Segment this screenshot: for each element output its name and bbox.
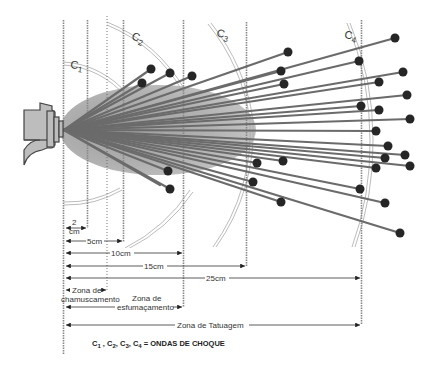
pellet <box>375 106 384 115</box>
pellet <box>391 34 400 43</box>
pellet <box>375 78 384 87</box>
pellet <box>372 127 381 136</box>
shock-wave-labels: C1 C2 C3 C4 <box>69 26 358 74</box>
label-15cm: 15cm <box>144 262 164 271</box>
legend-shock-waves: C1 , C2, C3, C4 = ONDAS DE CHOQUE <box>92 339 225 349</box>
pellet <box>188 72 197 81</box>
label-zona-esfumacamento-1: Zona de <box>132 294 162 303</box>
pellet <box>399 68 408 77</box>
label-c4: C4 <box>343 28 358 45</box>
gun-muzzle-icon <box>24 103 63 165</box>
firing-distance-diagram: C1 C2 C3 C4 2 cm 5cm 10cm 15cm 25cm Zona… <box>0 0 436 377</box>
pellet <box>372 164 381 173</box>
pellet <box>355 57 364 66</box>
label-25cm: 25cm <box>206 274 226 283</box>
pellet <box>147 65 156 74</box>
pellet <box>166 185 175 194</box>
pellet <box>279 157 288 166</box>
label-5cm: 5cm <box>87 237 102 246</box>
pellet <box>164 167 173 176</box>
pellet <box>384 142 393 151</box>
pellet <box>401 151 410 160</box>
pellet <box>396 229 405 238</box>
label-10cm: 10cm <box>111 249 131 258</box>
pellet <box>253 159 262 168</box>
pellet <box>406 115 415 124</box>
label-zona-chamuscamento-1: Zona de <box>72 286 102 295</box>
pellet <box>166 69 175 78</box>
label-c3: C3 <box>215 26 231 44</box>
pellet <box>357 102 366 111</box>
pellet <box>356 185 365 194</box>
pellet <box>403 91 412 100</box>
pellet <box>277 198 286 207</box>
shock-wave-c4 <box>347 23 373 247</box>
pellet <box>284 48 293 57</box>
label-c1: C1 <box>69 58 84 75</box>
label-zona-esfumacamento-2: esfumaçamento <box>117 303 174 312</box>
pellet <box>381 154 390 163</box>
pellet <box>249 178 258 187</box>
label-2cm-num: 2 <box>72 218 77 227</box>
label-c2: C2 <box>129 30 146 49</box>
pellet <box>280 80 289 89</box>
label-zona-chamuscamento-2: chamuscamento <box>61 295 120 304</box>
pellet <box>138 79 147 88</box>
dimension-labels: 2 cm 5cm 10cm 15cm 25cm Zona de chamusca… <box>61 218 244 330</box>
pellet <box>381 199 390 208</box>
pellet <box>277 67 286 76</box>
label-2cm-unit: cm <box>69 227 80 236</box>
label-zona-tatuagem: Zona de Tatuagem <box>177 321 244 330</box>
pellet <box>406 162 415 171</box>
